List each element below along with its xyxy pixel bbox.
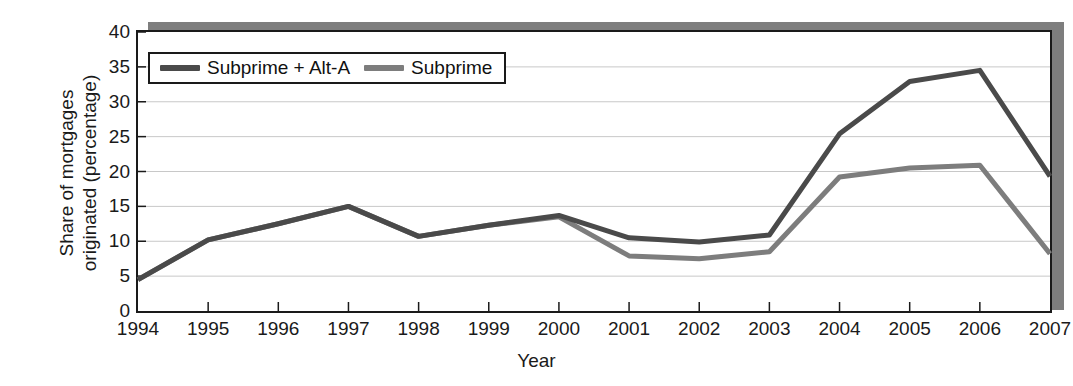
chart-figure: 0510152025303540 Share of mortgages orig… [0, 0, 1073, 386]
legend-swatch-subprime [364, 65, 404, 71]
x-axis-tick-label: 2005 [875, 318, 945, 340]
legend-entry-subprime: Subprime [364, 58, 492, 77]
chart-legend: Subprime + Alt-A Subprime [148, 52, 506, 84]
gridlines [138, 67, 1050, 276]
x-axis-tick-label: 2000 [524, 318, 594, 340]
x-axis-tick-label: 2003 [734, 318, 804, 340]
x-axis-tick-label: 2006 [945, 318, 1015, 340]
y-axis-ticks [138, 32, 146, 276]
x-axis-ticks [208, 302, 980, 311]
legend-entry-subprime-alt-a: Subprime + Alt-A [160, 58, 350, 77]
x-axis-tick-label: 2004 [805, 318, 875, 340]
legend-label-subprime-alt-a: Subprime + Alt-A [207, 58, 350, 77]
x-axis-tick-label: 1999 [454, 318, 524, 340]
x-axis-tick-label: 2007 [1015, 318, 1073, 340]
y-axis-tick-label: 40 [90, 22, 130, 41]
x-axis-tick-label: 1997 [313, 318, 383, 340]
x-axis-tick-label: 1994 [103, 318, 173, 340]
x-axis-tick-label: 2001 [594, 318, 664, 340]
y-axis-title-line-2: originated (percentage) [78, 43, 101, 303]
legend-label-subprime: Subprime [411, 58, 492, 77]
x-axis-tick-label: 1998 [384, 318, 454, 340]
x-axis-tick-label: 1995 [173, 318, 243, 340]
x-axis-tick-label: 2002 [664, 318, 734, 340]
x-axis-title: Year [0, 350, 1073, 372]
y-axis-title: Share of mortgages originated (percentag… [55, 43, 101, 303]
y-axis-title-line-1: Share of mortgages [56, 90, 77, 257]
x-axis-tick-label: 1996 [243, 318, 313, 340]
x-axis-tick-labels: 1994199519961997199819992000200120022003… [0, 318, 1073, 346]
legend-swatch-subprime-alt-a [160, 65, 200, 71]
